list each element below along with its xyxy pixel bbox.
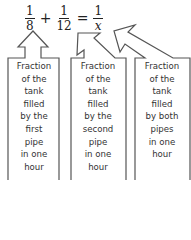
- box-line: in one: [73, 148, 123, 161]
- box-line: hour: [9, 161, 59, 174]
- callout-box-both-pipes: Fraction of the tank filled by both pipe…: [137, 60, 187, 180]
- box-line: tank: [73, 85, 123, 98]
- box-line: pipes: [137, 123, 187, 136]
- box-line: filled: [73, 98, 123, 111]
- box-line: by the: [9, 110, 59, 123]
- callout-box-second-pipe: Fraction of the tank filled by the secon…: [73, 60, 123, 180]
- box-line: of the: [73, 73, 123, 86]
- box-line: Fraction: [137, 60, 187, 73]
- box-line: tank: [9, 85, 59, 98]
- box-line: of the: [9, 73, 59, 86]
- box-line: hour: [73, 161, 123, 174]
- box-line: in one: [137, 136, 187, 149]
- box-line: of the: [137, 73, 187, 86]
- box-line: first: [9, 123, 59, 136]
- box-line: tank: [137, 85, 187, 98]
- box-line: filled: [9, 98, 59, 111]
- box-line: pipe: [73, 136, 123, 149]
- box-line: second: [73, 123, 123, 136]
- box-line: by both: [137, 110, 187, 123]
- box-line: in one: [9, 148, 59, 161]
- box-line: Fraction: [9, 60, 59, 73]
- box-line: by the: [73, 110, 123, 123]
- callout-box-first-pipe: Fraction of the tank filled by the first…: [9, 60, 59, 180]
- box-line: pipe: [9, 136, 59, 149]
- box-line: Fraction: [73, 60, 123, 73]
- box-line: filled: [137, 98, 187, 111]
- box-line: hour: [137, 148, 187, 161]
